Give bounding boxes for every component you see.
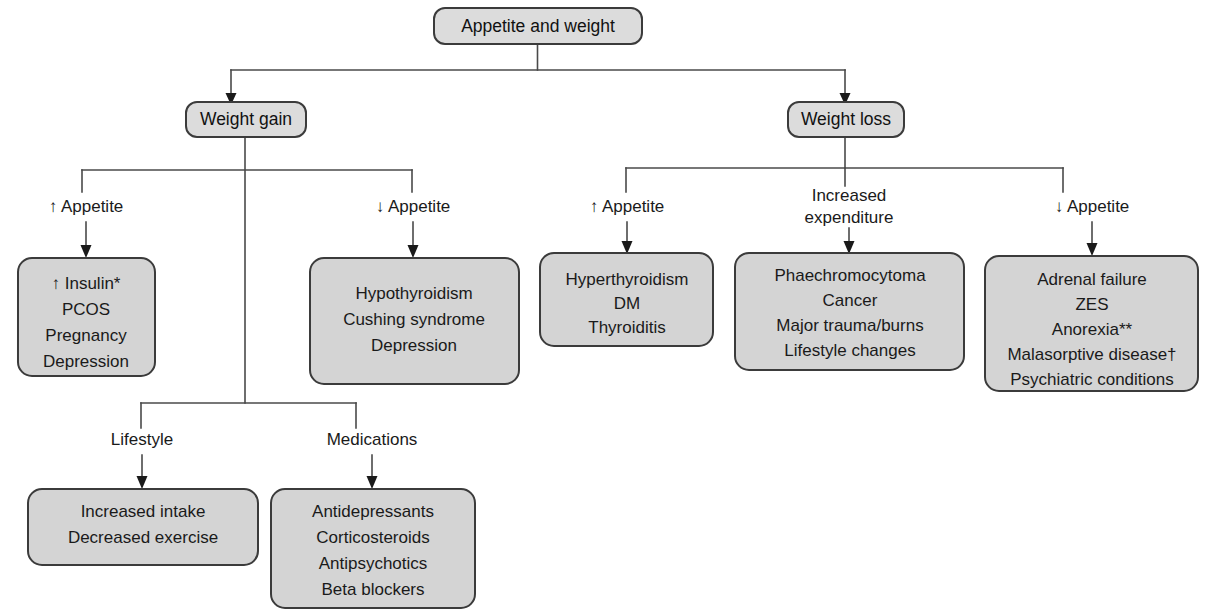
box-loss-down-appetite-line-1: ZES [1075, 295, 1108, 314]
box-loss-increased-expenditure[interactable]: Phaechromocytoma Cancer Major trauma/bur… [735, 253, 964, 370]
box-gain-up-appetite[interactable]: ↑ Insulin* PCOS Pregnancy Depression [18, 258, 155, 376]
box-gain-lifestyle-line-0: Increased intake [81, 502, 206, 521]
box-gain-up-appetite-line-0: ↑ Insulin* [52, 274, 121, 293]
box-loss-down-appetite-line-3: Malasorptive disease† [1007, 345, 1176, 364]
box-gain-medications-line-0: Antidepressants [312, 502, 434, 521]
edge-label-gain-lifestyle: Lifestyle [111, 430, 173, 449]
box-gain-up-appetite-line-2: Pregnancy [45, 326, 127, 345]
arrowhead-medications-box [367, 476, 378, 489]
box-loss-down-appetite-line-2: Anorexia** [1052, 320, 1133, 339]
box-gain-down-appetite-line-2: Depression [371, 336, 457, 355]
node-appetite-and-weight[interactable]: Appetite and weight [434, 8, 642, 44]
box-gain-lifestyle[interactable]: Increased intake Decreased exercise [28, 489, 258, 565]
arrowhead-gain-down-appetite-box [408, 245, 419, 258]
node-weight-gain[interactable]: Weight gain [186, 102, 306, 137]
edge-label-loss-up-appetite: ↑ Appetite [590, 197, 665, 216]
box-gain-down-appetite-line-0: Hypothyroidism [355, 284, 472, 303]
box-gain-up-appetite-line-3: Depression [43, 352, 129, 371]
box-loss-up-appetite-line-0: Hyperthyroidism [566, 270, 689, 289]
box-loss-increased-expenditure-line-3: Lifestyle changes [784, 341, 915, 360]
edge-label-loss-increased-expenditure-line2: expenditure [805, 208, 894, 227]
box-gain-medications-line-1: Corticosteroids [316, 528, 429, 547]
box-loss-up-appetite-line-2: Thyroiditis [588, 318, 665, 337]
box-gain-up-appetite-line-1: PCOS [62, 300, 110, 319]
node-weight-gain-label: Weight gain [200, 109, 292, 129]
edge-label-gain-medications: Medications [327, 430, 418, 449]
edge-label-gain-up-appetite: ↑ Appetite [49, 197, 124, 216]
box-gain-lifestyle-shape [28, 489, 258, 565]
box-gain-down-appetite-line-1: Cushing syndrome [343, 310, 485, 329]
box-loss-increased-expenditure-line-2: Major trauma/burns [776, 316, 923, 335]
box-gain-down-appetite[interactable]: Hypothyroidism Cushing syndrome Depressi… [310, 258, 519, 384]
arrowhead-gain-up-appetite-box [81, 245, 92, 258]
node-weight-loss[interactable]: Weight loss [788, 102, 904, 137]
box-loss-up-appetite-line-1: DM [614, 294, 640, 313]
box-loss-down-appetite-line-4: Psychiatric conditions [1010, 370, 1173, 389]
box-loss-increased-expenditure-line-1: Cancer [823, 291, 878, 310]
box-gain-medications-line-3: Beta blockers [322, 580, 425, 599]
box-loss-down-appetite-line-0: Adrenal failure [1037, 270, 1147, 289]
box-gain-medications-line-2: Antipsychotics [319, 554, 428, 573]
edge-label-loss-down-appetite: ↓ Appetite [1055, 197, 1130, 216]
edge-label-gain-down-appetite: ↓ Appetite [376, 197, 451, 216]
arrowhead-lifestyle-box [137, 476, 148, 489]
node-weight-loss-label: Weight loss [801, 109, 891, 129]
box-gain-medications[interactable]: Antidepressants Corticosteroids Antipsyc… [271, 489, 475, 608]
arrowhead-loss-down-appetite-box [1087, 243, 1098, 256]
box-gain-lifestyle-line-1: Decreased exercise [68, 528, 218, 547]
node-appetite-and-weight-label: Appetite and weight [461, 16, 615, 36]
box-loss-down-appetite[interactable]: Adrenal failure ZES Anorexia** Malasorpt… [985, 256, 1198, 391]
flowchart-appetite-and-weight: Appetite and weight Weight gain Weight l… [0, 0, 1211, 616]
edge-label-loss-increased-expenditure-line1: Increased [812, 186, 887, 205]
box-loss-up-appetite[interactable]: Hyperthyroidism DM Thyroiditis [540, 253, 713, 346]
box-loss-increased-expenditure-line-0: Phaechromocytoma [774, 266, 926, 285]
